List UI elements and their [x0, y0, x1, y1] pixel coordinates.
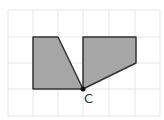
point-c-label: C [84, 91, 93, 106]
grid-diagram [0, 0, 164, 120]
